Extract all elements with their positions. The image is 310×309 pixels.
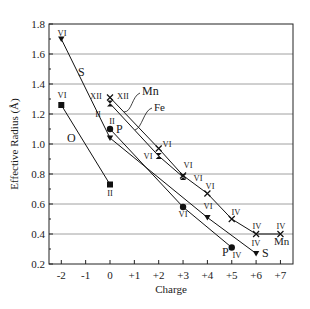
coordination-label: VI [163, 139, 172, 149]
coordination-label: VI [144, 151, 153, 161]
coordination-label: VI [179, 209, 188, 219]
y-tick-label: 0.8 [31, 168, 45, 180]
coordination-label: IV [252, 238, 262, 248]
series-label: S [262, 246, 269, 260]
coordination-label: XII [90, 91, 102, 101]
series-label: S [78, 65, 85, 79]
coordination-label: IV [233, 250, 243, 260]
x-axis: -2-10+1+2+3+4+5+6+7 [57, 260, 287, 281]
x-tick-label: +6 [250, 269, 262, 281]
y-axis-label: Effective Radius (Å) [8, 98, 21, 190]
y-tick-label: 1.6 [31, 48, 45, 60]
y-tick-label: 1.0 [31, 138, 45, 150]
y-tick-label: 1.4 [31, 78, 45, 90]
x-tick-label: +7 [275, 269, 287, 281]
chart: 0.20.40.60.81.01.21.41.61.8 -2-10+1+2+3+… [0, 0, 310, 309]
x-tick-label: +3 [177, 269, 189, 281]
series-label: Mn [142, 84, 159, 98]
series-label: Fe [154, 101, 165, 113]
y-tick-label: 1.8 [31, 18, 45, 30]
series-label: P [222, 245, 229, 259]
series-label: Mn [274, 235, 290, 247]
coordination-label: XII [117, 91, 129, 101]
y-axis: 0.20.40.60.81.01.21.41.61.8 [31, 18, 53, 270]
coordination-label: IV [277, 221, 287, 231]
x-tick-label: +2 [153, 269, 165, 281]
coordination-label: VI [206, 181, 215, 191]
coordination-label: IV [232, 207, 242, 217]
y-tick-label: 0.2 [31, 258, 45, 270]
x-tick-label: +4 [202, 269, 214, 281]
y-tick-label: 0.6 [31, 198, 45, 210]
series-mn [107, 95, 283, 238]
coordination-label: VI [204, 201, 213, 211]
coordination-label: II [109, 116, 115, 126]
series-label: P [116, 122, 123, 136]
coordination-label: II [107, 188, 113, 198]
series-label: O [67, 131, 76, 145]
y-tick-label: 0.4 [31, 228, 45, 240]
x-tick-label: +5 [226, 269, 238, 281]
coordination-label: VI [184, 160, 193, 170]
x-axis-label: Charge [155, 283, 187, 295]
coordination-label: VI [58, 90, 67, 100]
coordination-label: II [95, 109, 101, 119]
x-tick-label: +1 [128, 269, 140, 281]
y-tick-label: 1.2 [31, 108, 45, 120]
x-tick-label: -1 [81, 269, 90, 281]
x-tick-label: 0 [107, 269, 113, 281]
x-tick-label: -2 [57, 269, 66, 281]
coordination-label: VI [58, 28, 67, 38]
series-s [58, 37, 259, 257]
coordination-label: IV [253, 221, 263, 231]
coordination-label: VI [194, 173, 203, 183]
